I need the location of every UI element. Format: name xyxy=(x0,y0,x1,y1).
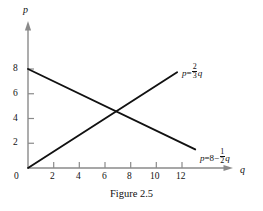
demand-label-q: q xyxy=(225,153,230,163)
supply-curve-label: p=23q xyxy=(182,63,202,80)
demand-label-minus: − xyxy=(214,153,219,163)
x-tick-label-6: 6 xyxy=(102,171,107,181)
y-axis-ticks xyxy=(28,69,34,143)
x-tick-label-4: 4 xyxy=(76,171,81,181)
y-tick-label-6: 6 xyxy=(13,88,18,98)
x-axis-ticks xyxy=(54,162,182,168)
x-tick-label-12: 12 xyxy=(176,171,186,181)
y-axis-label: p xyxy=(23,4,28,15)
x-tick-label-10: 10 xyxy=(150,171,160,181)
origin-label: 0 xyxy=(14,171,19,181)
figure-caption: Figure 2.5 xyxy=(0,188,263,199)
y-tick-label-8: 8 xyxy=(13,63,18,73)
demand-curve-label: p=8−12q xyxy=(200,148,230,165)
y-axis-arrowhead xyxy=(25,21,31,31)
x-axis-arrowhead xyxy=(224,165,234,171)
x-tick-label-8: 8 xyxy=(127,171,132,181)
supply-label-q: q xyxy=(198,68,203,78)
supply-label-equals: = xyxy=(187,68,192,78)
supply-label-fraction: 23 xyxy=(192,63,197,80)
x-axis-label: q xyxy=(240,164,245,175)
y-tick-label-2: 2 xyxy=(13,137,18,147)
x-tick-label-2: 2 xyxy=(50,171,55,181)
supply-curve xyxy=(28,72,177,168)
demand-curve xyxy=(28,69,195,149)
y-axis xyxy=(25,21,31,168)
y-tick-label-4: 4 xyxy=(13,113,18,123)
figure-container: p q 8 6 4 2 0 2 4 6 8 10 12 p=23q p=8−12… xyxy=(0,0,263,211)
